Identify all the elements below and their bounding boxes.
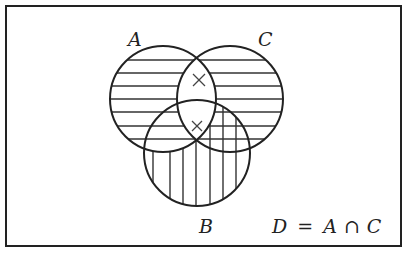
- cross-mark-ac: [193, 74, 205, 86]
- label-a: A: [126, 28, 142, 50]
- label-c: C: [258, 28, 273, 50]
- vertical-hatching: [153, 100, 236, 210]
- venn-diagram: A C B D = A ∩ C: [0, 0, 408, 256]
- label-b: B: [198, 215, 213, 237]
- equation: D = A ∩ C: [271, 215, 382, 237]
- circle-b: [144, 100, 250, 206]
